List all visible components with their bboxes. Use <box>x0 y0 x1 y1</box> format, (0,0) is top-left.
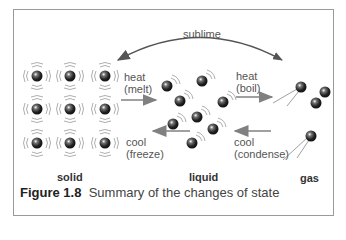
freeze-label-line2: (freeze) <box>126 148 164 160</box>
solid-label: solid <box>57 171 83 183</box>
condense-label-line2: (condense) <box>234 148 289 160</box>
freeze-label-line1: cool <box>126 136 146 148</box>
figure-caption-text: Summary of the changes of state <box>89 185 280 200</box>
liquid-particles <box>162 70 237 149</box>
sublime-label: sublime <box>183 28 221 40</box>
condense-label-line1: cool <box>234 136 254 148</box>
liquid-label: liquid <box>189 171 218 183</box>
solid-particles <box>24 63 119 157</box>
melt-label-line2: (melt) <box>124 83 152 95</box>
figure-number: Figure 1.8 <box>20 185 81 200</box>
melt-label-line1: heat <box>124 71 145 83</box>
figure-caption: Figure 1.8 Summary of the changes of sta… <box>20 185 279 200</box>
gas-label: gas <box>300 172 319 184</box>
sublime-arrow <box>118 38 282 61</box>
boil-label-line2: (boil) <box>236 82 260 94</box>
boil-label-line1: heat <box>236 70 257 82</box>
